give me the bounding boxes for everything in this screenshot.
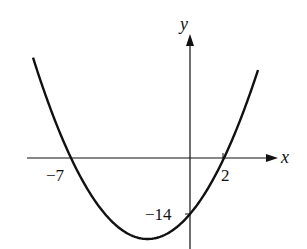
parabola-chart: x y −7 2 −14 [0, 0, 307, 249]
x-axis-arrow-icon [266, 154, 278, 162]
x-axis-label: x [280, 147, 289, 167]
y-axis-label: y [178, 14, 188, 34]
x-intercept-right-label: 2 [221, 166, 230, 185]
y-axis-arrow-icon [186, 34, 194, 46]
y-intercept-label: −14 [145, 205, 172, 224]
x-intercept-left-label: −7 [46, 166, 65, 185]
